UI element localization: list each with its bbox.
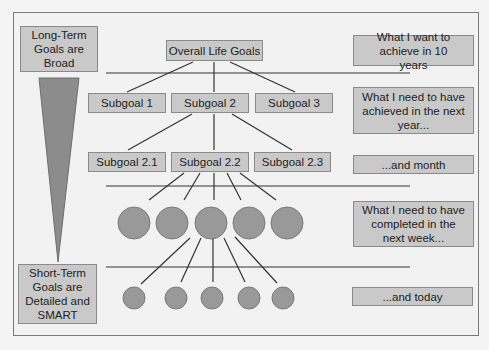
subgoal-2-2-box: Subgoal 2.2 [171,152,249,172]
funnel-triangle [39,78,79,262]
timeframe-month: ...and month [353,155,474,174]
weekly-goal-circles [118,207,303,239]
short-term-label: Short-Term Goals are Detailed and SMART [18,264,97,324]
connectors-root [127,62,295,92]
connectors-daily [141,237,277,284]
subgoal-3-box: Subgoal 3 [255,93,333,113]
timeframe-year: What I need to have achieved in the next… [353,87,474,134]
daily-goal-circles [123,287,294,309]
timeframe-10-years: What I want to achieve in 10 years [353,35,474,66]
timeframe-today: ...and today [352,287,473,306]
overall-life-goals-box: Overall Life Goals [166,40,263,61]
timeframe-week: What I need to have completed in the nex… [353,201,474,247]
subgoal-2-3-box: Subgoal 2.3 [254,152,331,172]
long-term-label: Long-Term Goals are Broad [20,26,98,72]
connectors-subgoal2 [128,114,292,150]
subgoal-2-box: Subgoal 2 [171,93,249,113]
subgoal-2-1-box: Subgoal 2.1 [88,152,166,172]
subgoal-1-box: Subgoal 1 [88,93,166,113]
